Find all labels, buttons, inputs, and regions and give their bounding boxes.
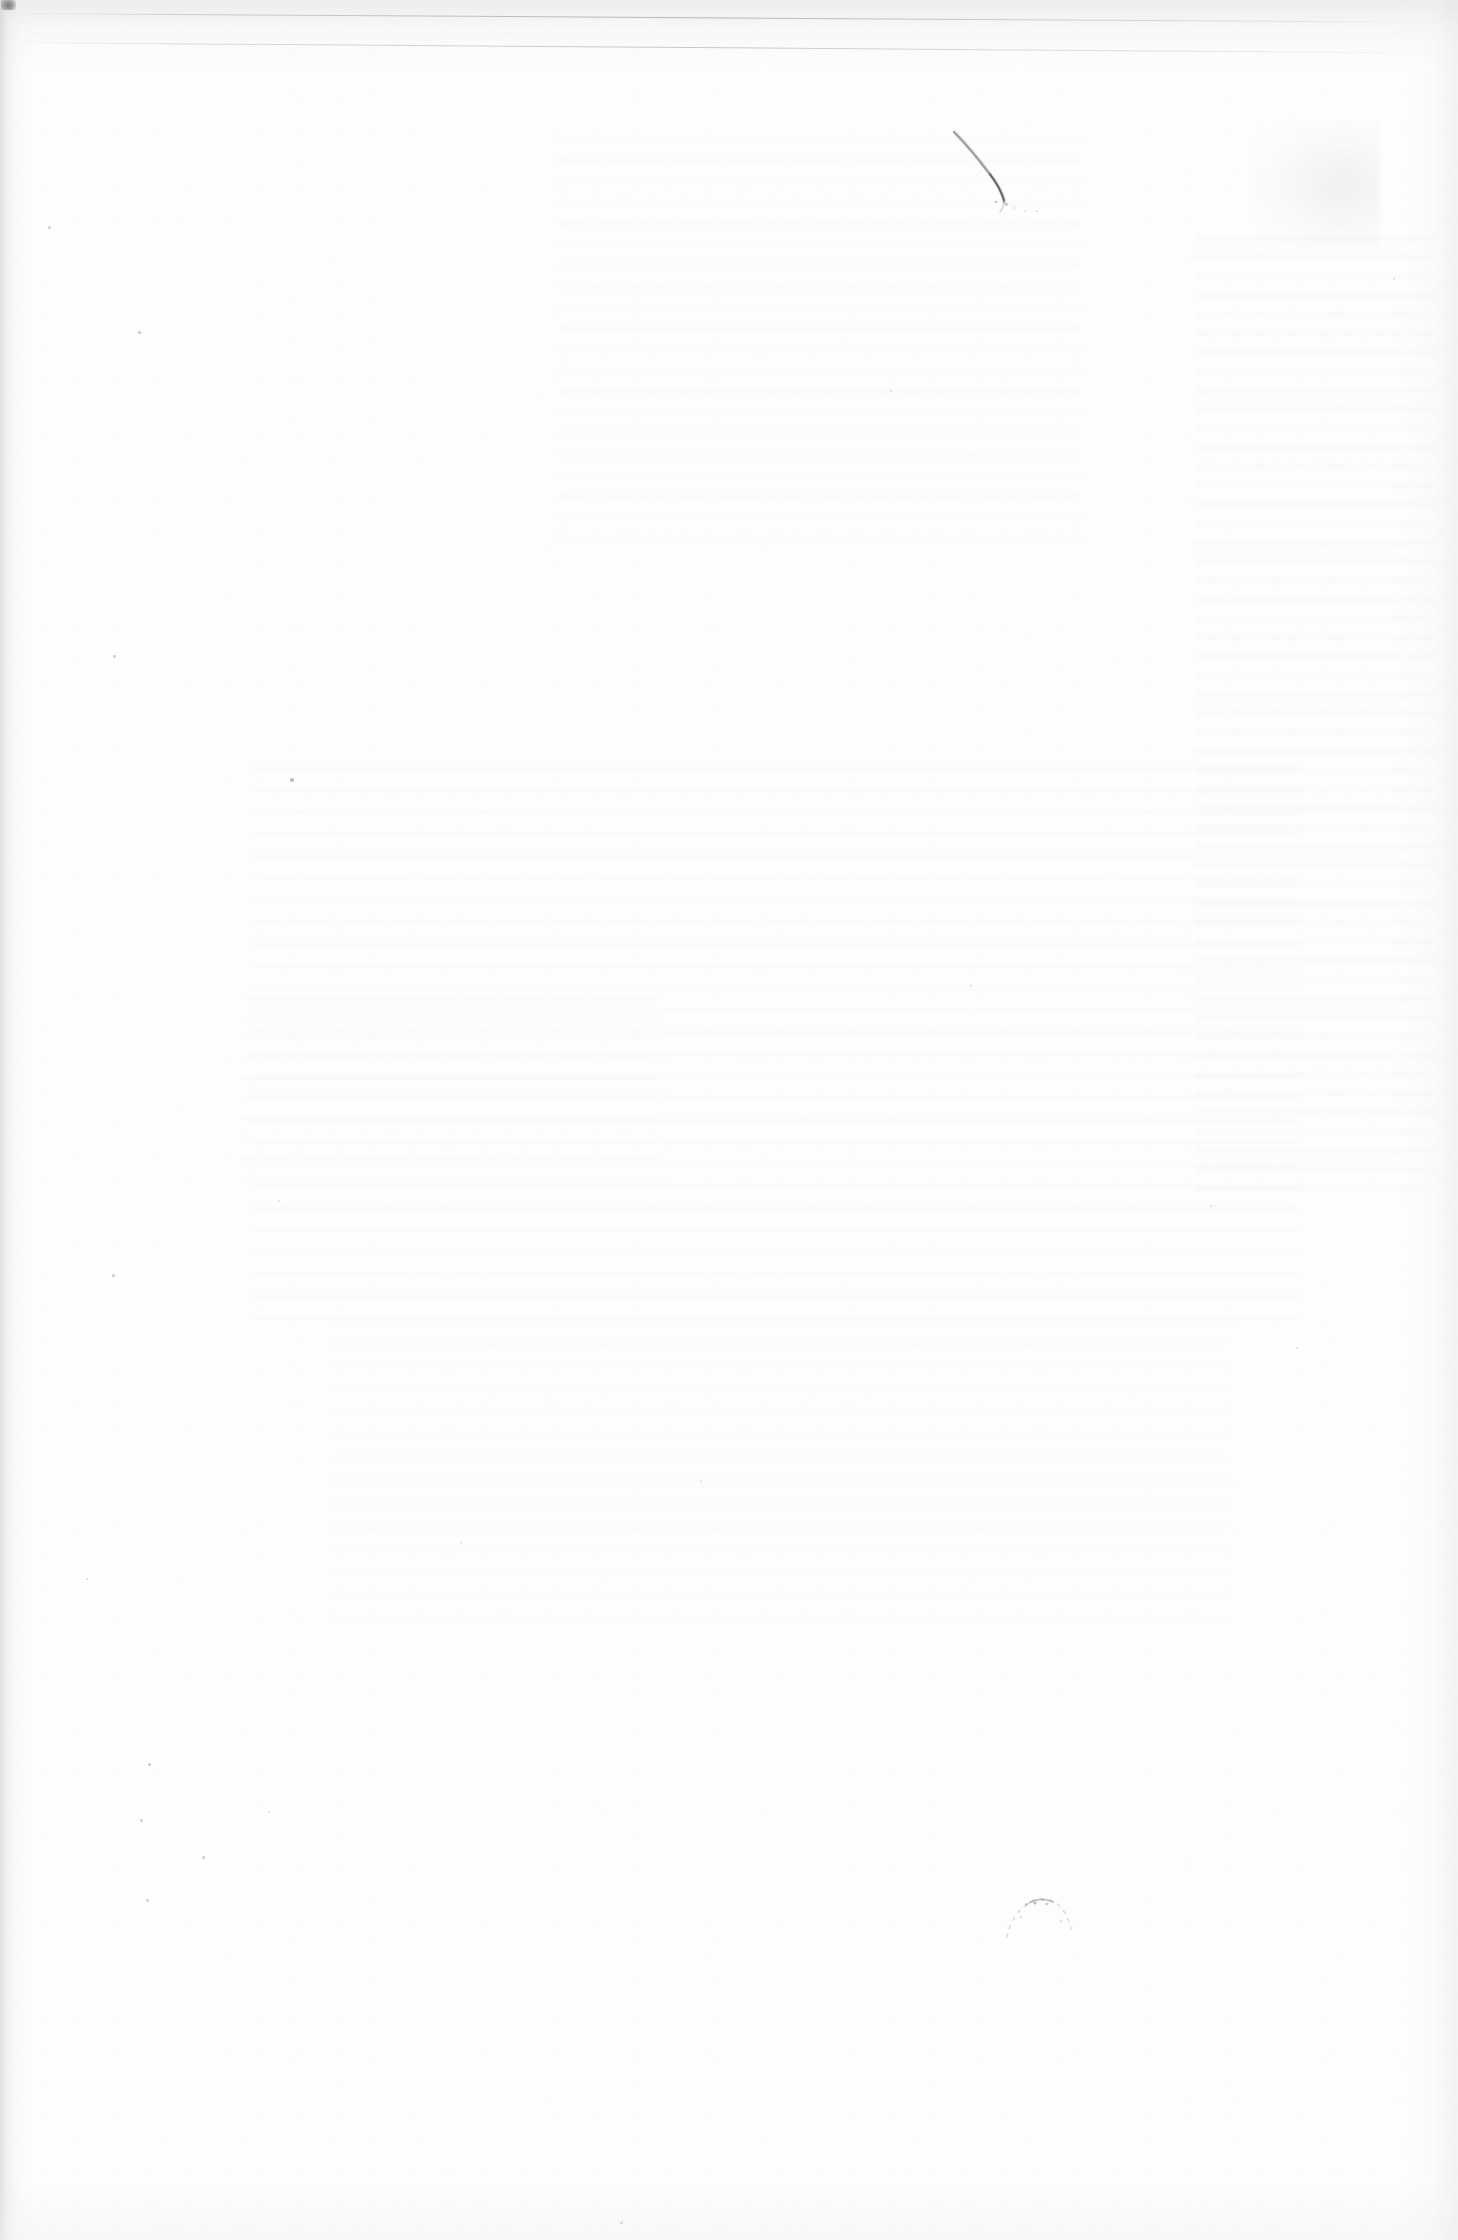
paper-speck [460, 1542, 462, 1544]
right-edge-shadow [1398, 0, 1458, 2240]
left-edge-shadow [0, 0, 34, 2240]
paper-speck [113, 655, 116, 658]
paper-speck [1005, 203, 1008, 206]
paper-background [0, 0, 1458, 2240]
paper-speck [48, 226, 51, 229]
paper-speck [700, 1480, 702, 1482]
scanned-page [0, 0, 1458, 2240]
bottom-edge-shadow [0, 2180, 1458, 2240]
paper-speck [290, 778, 294, 782]
paper-speck [202, 1856, 205, 1859]
paper-speck [1025, 1903, 1028, 1906]
paper-speck [140, 1819, 143, 1822]
paper-speck [146, 1899, 149, 1902]
top-margin-band [0, 0, 1458, 46]
